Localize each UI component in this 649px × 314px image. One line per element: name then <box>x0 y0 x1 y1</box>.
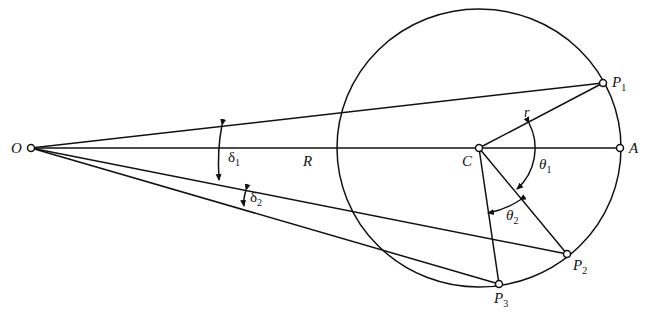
theta1-arc <box>517 123 535 189</box>
point-P2 <box>564 251 571 258</box>
label-P2-sub: 2 <box>582 265 587 276</box>
label-P1-main: P <box>612 74 621 90</box>
point-P3 <box>496 281 503 288</box>
geometry-figure <box>0 0 649 314</box>
point-P1 <box>600 80 607 87</box>
label-delta1: δ1 <box>228 150 240 168</box>
delta2-arc <box>244 190 246 206</box>
label-P3-sub: 3 <box>503 298 508 309</box>
label-P1-sub: 1 <box>621 82 626 93</box>
radius-C-P1 <box>479 83 603 148</box>
point-O <box>28 145 35 152</box>
label-O: O <box>11 141 22 156</box>
label-P1: P1 <box>612 75 626 93</box>
label-delta2-sub: 2 <box>257 197 262 208</box>
point-C <box>476 145 483 152</box>
delta1-arc <box>218 125 222 180</box>
label-theta2-sub: 2 <box>513 215 518 226</box>
label-P2: P2 <box>573 258 587 276</box>
line-O-P3 <box>31 148 499 284</box>
label-P2-main: P <box>573 257 582 273</box>
label-P3-main: P <box>494 290 503 306</box>
label-theta1: θ1 <box>539 157 551 175</box>
label-delta1-sub: 1 <box>235 157 240 168</box>
point-A <box>617 145 624 152</box>
label-theta2: θ2 <box>506 208 518 226</box>
label-C: C <box>462 154 472 169</box>
label-delta2: δ2 <box>250 190 262 208</box>
label-R: R <box>303 154 312 169</box>
diagram-canvas: O C A R r P1 P2 P3 δ1 δ2 θ1 θ2 <box>0 0 649 314</box>
line-O-P1 <box>31 83 603 148</box>
label-r: r <box>524 106 529 120</box>
label-A: A <box>629 141 638 156</box>
label-P3: P3 <box>494 291 508 309</box>
label-theta1-sub: 1 <box>546 164 551 175</box>
